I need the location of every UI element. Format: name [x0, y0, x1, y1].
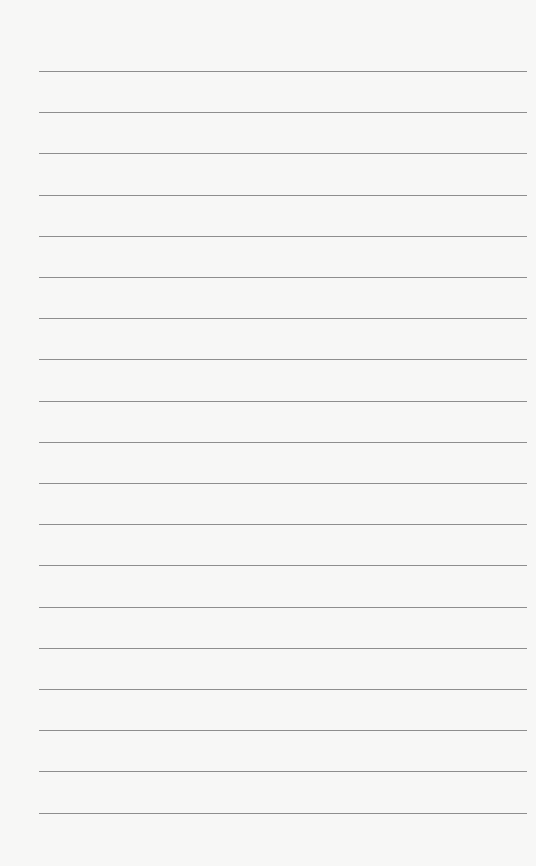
lined-paper: [0, 0, 536, 866]
ruled-line: [39, 359, 527, 360]
ruled-line: [39, 730, 527, 731]
ruled-line: [39, 648, 527, 649]
ruled-line: [39, 565, 527, 566]
ruled-line: [39, 771, 527, 772]
ruled-line: [39, 607, 527, 608]
ruled-line: [39, 401, 527, 402]
ruled-line: [39, 442, 527, 443]
ruled-line: [39, 813, 527, 814]
ruled-line: [39, 318, 527, 319]
ruled-line: [39, 483, 527, 484]
ruled-line: [39, 689, 527, 690]
ruled-line: [39, 112, 527, 113]
ruled-line: [39, 524, 527, 525]
ruled-line: [39, 71, 527, 72]
ruled-line: [39, 236, 527, 237]
ruled-line: [39, 153, 527, 154]
ruled-line: [39, 195, 527, 196]
ruled-line: [39, 277, 527, 278]
